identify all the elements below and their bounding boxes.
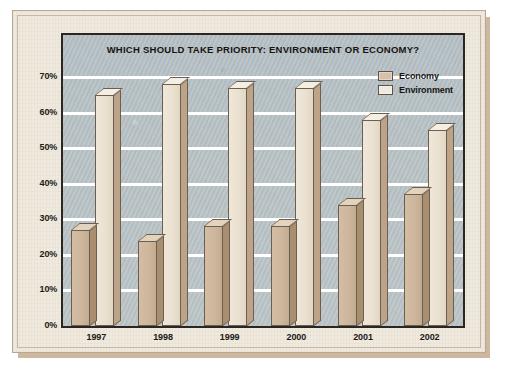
bar-environment-1997: [95, 95, 114, 326]
bar-face: [362, 120, 381, 326]
y-axis-tick-label: 60%: [13, 107, 57, 117]
gridline: [63, 254, 463, 257]
legend-item-environment: Environment: [378, 85, 453, 95]
x-axis-label-1999: 1999: [196, 332, 263, 342]
y-axis-tick-label: 30%: [13, 213, 57, 223]
x-axis-label-2002: 2002: [396, 332, 463, 342]
y-axis-tick-label: 10%: [13, 284, 57, 294]
bar-face: [204, 226, 223, 326]
gridline: [63, 183, 463, 186]
x-axis-label-1998: 1998: [130, 332, 197, 342]
bar-face: [404, 194, 423, 326]
y-axis-tick-label: 40%: [13, 178, 57, 188]
bar-side: [247, 82, 254, 326]
gridline: [63, 147, 463, 150]
gridline: [63, 289, 463, 292]
bar-economy-1999: [204, 226, 223, 326]
bar-face: [295, 88, 314, 326]
bar-face: [138, 241, 157, 326]
screenshot-canvas: WHICH SHOULD TAKE PRIORITY: ENVIRONMENT …: [0, 0, 511, 372]
bar-face: [71, 230, 90, 326]
gridline: [63, 112, 463, 115]
bar-environment-1999: [228, 88, 247, 326]
y-axis-tick-label: 70%: [13, 71, 57, 81]
bar-economy-1997: [71, 230, 90, 326]
bar-side: [181, 79, 188, 326]
bar-side: [447, 125, 454, 326]
bar-face: [428, 130, 447, 326]
bar-environment-2001: [362, 120, 381, 326]
bar-side: [290, 221, 297, 326]
y-axis-tick-label: 0%: [13, 320, 57, 330]
bar-face: [271, 226, 290, 326]
bar-side: [90, 224, 97, 326]
bar-chart: WHICH SHOULD TAKE PRIORITY: ENVIRONMENT …: [61, 33, 465, 328]
bar-environment-2000: [295, 88, 314, 326]
bar-side: [423, 189, 430, 326]
bar-side: [357, 200, 364, 326]
bar-economy-1998: [138, 241, 157, 326]
legend-swatch-economy: [378, 71, 393, 81]
legend-label-environment: Environment: [399, 85, 453, 95]
bar-face: [228, 88, 247, 326]
x-axis-label-2001: 2001: [330, 332, 397, 342]
chart-legend: Economy Environment: [378, 71, 453, 95]
bar-side: [114, 89, 121, 326]
bar-environment-1998: [162, 84, 181, 326]
bar-economy-2001: [338, 205, 357, 326]
printed-page: WHICH SHOULD TAKE PRIORITY: ENVIRONMENT …: [12, 10, 486, 353]
bar-side: [223, 221, 230, 326]
bar-face: [95, 95, 114, 326]
bar-side: [314, 82, 321, 326]
legend-item-economy: Economy: [378, 71, 453, 81]
legend-label-economy: Economy: [399, 71, 439, 81]
bar-face: [338, 205, 357, 326]
x-axis-label-1997: 1997: [63, 332, 130, 342]
y-axis-tick-label: 20%: [13, 249, 57, 259]
gridline: [63, 218, 463, 221]
bar-environment-2002: [428, 130, 447, 326]
bar-side: [157, 235, 164, 326]
bar-face: [162, 84, 181, 326]
y-axis-tick-label: 50%: [13, 142, 57, 152]
bar-economy-2002: [404, 194, 423, 326]
bar-economy-2000: [271, 226, 290, 326]
chart-title: WHICH SHOULD TAKE PRIORITY: ENVIRONMENT …: [63, 44, 463, 55]
bar-side: [381, 114, 388, 326]
x-axis-label-2000: 2000: [263, 332, 330, 342]
legend-swatch-environment: [378, 85, 393, 95]
